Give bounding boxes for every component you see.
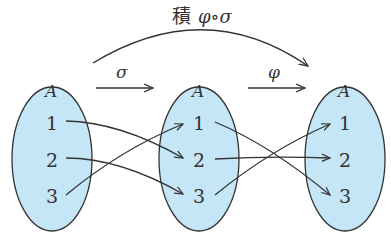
set1-element-3: 3 [46,185,58,207]
set3-element-2: 2 [339,149,351,171]
title-formula: φ∘σ [198,6,232,27]
set-label-2: A [190,81,204,101]
phi-label: φ [268,62,280,82]
set2-element-1: 1 [193,112,205,134]
set3-element-1: 1 [339,112,351,134]
set1-element-2: 2 [46,149,58,171]
set2-element-2: 2 [193,149,205,171]
set2-element-3: 3 [193,185,205,207]
set-label-3: A [336,81,350,101]
set1-element-1: 1 [46,112,58,134]
composition-diagram: 積 φ∘σ σ φ A A A 1 2 3 1 2 3 1 2 3 [0,0,391,245]
title-kanji: 積 [172,5,191,27]
composite-arc-arrow [93,30,308,66]
sigma-label: σ [116,62,128,82]
set3-element-3: 3 [339,185,351,207]
set-label-1: A [43,81,57,101]
composition-title: 積 φ∘σ [172,5,232,27]
